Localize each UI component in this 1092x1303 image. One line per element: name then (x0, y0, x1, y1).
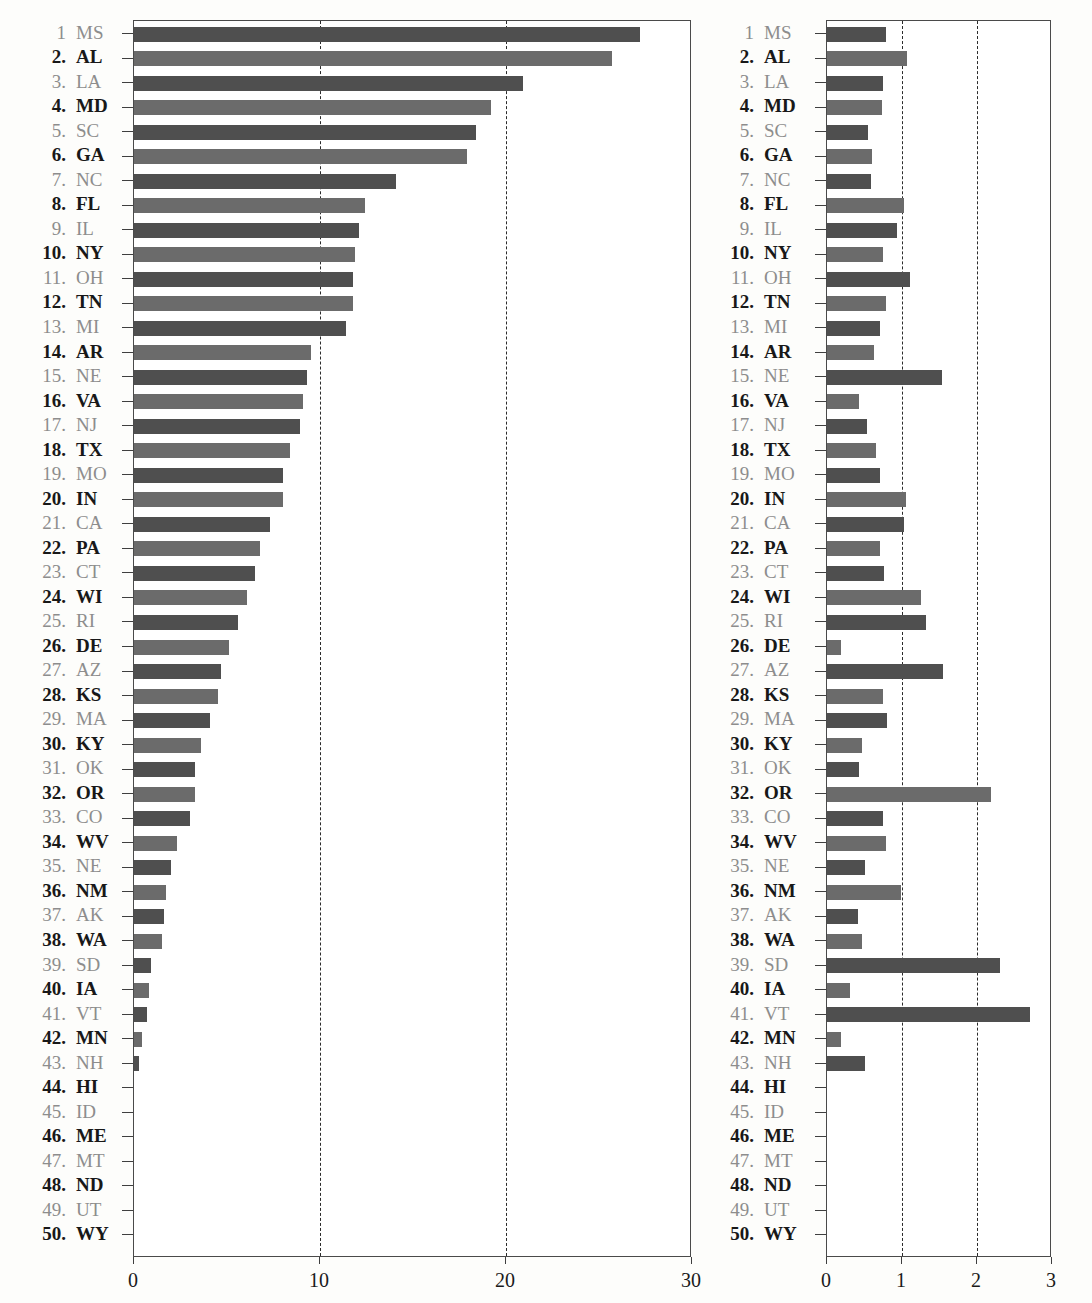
state-abbreviation: CA (764, 511, 790, 536)
row-tick (815, 425, 826, 426)
bar (134, 174, 396, 189)
row-tick (815, 1234, 826, 1235)
rank-number: 8. (708, 192, 754, 217)
bar (134, 1032, 142, 1047)
x-axis-label: 20 (495, 1269, 515, 1292)
state-abbreviation: NC (764, 168, 790, 193)
state-abbreviation: MI (76, 315, 99, 340)
x-axis-tick (826, 1257, 827, 1264)
state-abbreviation: VT (764, 1002, 789, 1027)
category-label-row: 16.VA (0, 389, 133, 414)
category-label-row: 10.NY (0, 241, 133, 266)
row-tick (122, 1087, 133, 1088)
bar (827, 836, 886, 851)
state-abbreviation: SD (76, 953, 100, 978)
state-abbreviation: MA (76, 707, 107, 732)
state-abbreviation: KY (764, 732, 793, 757)
bar (827, 272, 910, 287)
rank-number: 18. (708, 438, 754, 463)
category-label-row: 33.CO (0, 805, 133, 830)
bar (827, 934, 862, 949)
category-label-row: 20.IN (0, 487, 133, 512)
rank-number: 13. (708, 315, 754, 340)
category-label-row: 19.MO (700, 462, 826, 487)
row-tick (815, 1185, 826, 1186)
state-abbreviation: VT (76, 1002, 101, 1027)
rank-number: 9. (20, 217, 66, 242)
bar (827, 762, 859, 777)
bar (134, 198, 365, 213)
category-label-row: 37.AK (0, 903, 133, 928)
category-label-row: 25.RI (700, 609, 826, 634)
category-label-row: 38.WA (0, 928, 133, 953)
bar (134, 125, 476, 140)
rank-number: 32. (20, 781, 66, 806)
state-abbreviation: NE (76, 364, 101, 389)
state-abbreviation: MD (764, 94, 796, 119)
bar (827, 321, 880, 336)
rank-number: 15. (20, 364, 66, 389)
state-abbreviation: CO (764, 805, 790, 830)
row-tick (122, 303, 133, 304)
state-abbreviation: NC (76, 168, 102, 193)
state-abbreviation: GA (764, 143, 793, 168)
right-plot-area (826, 20, 1051, 1257)
bar (827, 983, 850, 998)
state-abbreviation: OR (764, 781, 793, 806)
rank-number: 24. (708, 585, 754, 610)
category-label-row: 32.OR (700, 781, 826, 806)
rank-number: 48. (20, 1173, 66, 1198)
rank-number: 50. (20, 1222, 66, 1247)
row-tick (815, 303, 826, 304)
rank-number: 33. (20, 805, 66, 830)
rank-number: 3. (20, 70, 66, 95)
bar (827, 615, 926, 630)
rank-number: 44. (20, 1075, 66, 1100)
state-abbreviation: AR (764, 340, 791, 365)
bar (134, 983, 149, 998)
rank-number: 43. (20, 1051, 66, 1076)
bar (827, 640, 841, 655)
rank-number: 28. (708, 683, 754, 708)
category-label-row: 27.AZ (0, 658, 133, 683)
category-label-row: 30.KY (700, 732, 826, 757)
state-abbreviation: VA (764, 389, 789, 414)
bar (827, 419, 867, 434)
row-tick (122, 867, 133, 868)
state-abbreviation: CA (76, 511, 102, 536)
x-axis-tick (1051, 1257, 1052, 1264)
state-abbreviation: NH (764, 1051, 791, 1076)
row-tick (815, 916, 826, 917)
bar (134, 370, 307, 385)
bar (827, 345, 874, 360)
rank-number: 4. (20, 94, 66, 119)
state-abbreviation: NE (76, 854, 101, 879)
rank-number: 10. (20, 241, 66, 266)
category-label-row: 8.FL (0, 192, 133, 217)
row-tick (122, 1014, 133, 1015)
state-abbreviation: MI (764, 315, 787, 340)
bar (827, 27, 886, 42)
bar (134, 76, 523, 91)
rank-number: 21. (20, 511, 66, 536)
rank-number: 6. (20, 143, 66, 168)
row-tick (122, 352, 133, 353)
state-abbreviation: MT (764, 1149, 793, 1174)
rank-number: 26. (708, 634, 754, 659)
category-label-row: 50.WY (0, 1222, 133, 1247)
bar (134, 443, 290, 458)
bar (827, 1056, 865, 1071)
rank-number: 14. (708, 340, 754, 365)
state-abbreviation: WA (76, 928, 107, 953)
category-label-row: 14.AR (700, 340, 826, 365)
category-label-row: 38.WA (700, 928, 826, 953)
category-label-row: 28.KS (700, 683, 826, 708)
rank-number: 36. (708, 879, 754, 904)
category-label-row: 23.CT (0, 560, 133, 585)
state-abbreviation: ME (764, 1124, 795, 1149)
row-tick (122, 1234, 133, 1235)
state-abbreviation: IL (764, 217, 782, 242)
category-label-row: 27.AZ (700, 658, 826, 683)
bar (134, 492, 283, 507)
rank-number: 4. (708, 94, 754, 119)
